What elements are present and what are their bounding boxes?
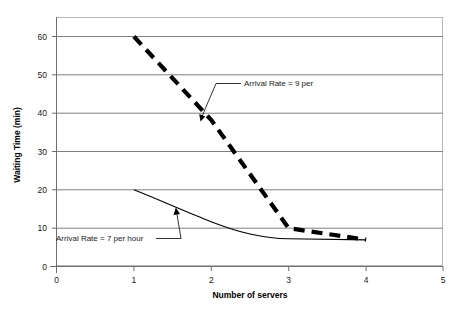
x-tick-label-3: 3 xyxy=(286,275,291,285)
chart-background xyxy=(0,0,458,309)
waiting-time-chart: 60 50 40 30 20 10 0 0 1 2 3 4 5 Number o… xyxy=(0,0,458,309)
y-tick-label-30: 30 xyxy=(38,147,48,157)
x-tick-label-5: 5 xyxy=(441,275,446,285)
y-tick-label-10: 10 xyxy=(38,223,48,233)
x-tick-label-1: 1 xyxy=(132,275,137,285)
annotation-upper-label: Arrival Rate = 9 per xyxy=(244,79,313,88)
x-tick-label-4: 4 xyxy=(364,275,369,285)
y-tick-label-0: 0 xyxy=(42,262,47,272)
x-axis-title: Number of servers xyxy=(212,290,287,300)
y-axis-title: Waiting Time (min) xyxy=(12,107,22,183)
x-tick-label-2: 2 xyxy=(209,275,214,285)
y-tick-label-40: 40 xyxy=(38,108,48,118)
annotation-lower-label: Arrival Rate = 7 per hour xyxy=(56,234,144,243)
y-tick-label-50: 50 xyxy=(38,70,48,80)
y-tick-label-20: 20 xyxy=(38,185,48,195)
y-tick-label-60: 60 xyxy=(38,32,48,42)
x-tick-label-0: 0 xyxy=(54,275,59,285)
chart-container: 60 50 40 30 20 10 0 0 1 2 3 4 5 Number o… xyxy=(0,0,458,309)
